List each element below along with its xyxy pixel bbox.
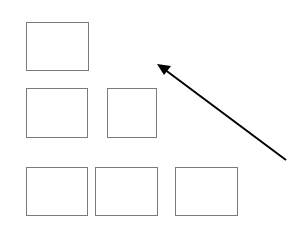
arrow	[0, 0, 304, 229]
